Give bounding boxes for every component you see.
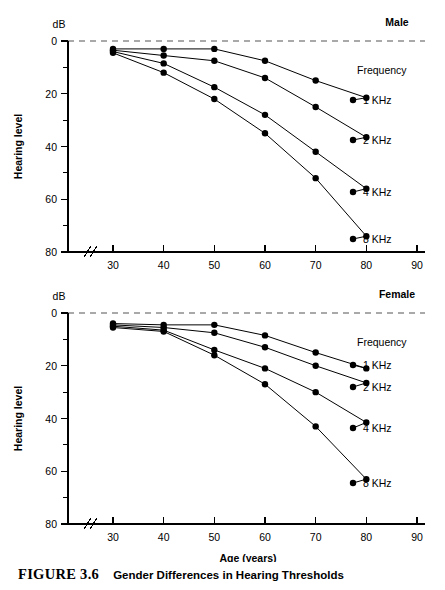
x-tick-label: 90: [411, 259, 423, 271]
legend-marker: [350, 362, 356, 368]
data-point: [262, 112, 268, 118]
data-point: [262, 75, 268, 81]
legend-marker: [350, 189, 356, 195]
figure-3-6: 02040608030405060708090dBHearing levelAg…: [0, 0, 445, 590]
x-axis-title: Age (years): [219, 552, 276, 562]
y-unit-label: dB: [53, 290, 66, 302]
legend-label: 8 KHz: [363, 233, 392, 245]
y-tick-label: 40: [45, 141, 57, 153]
legend-label: 8 KHz: [363, 477, 392, 489]
data-point: [262, 381, 268, 387]
data-point: [160, 69, 166, 75]
x-tick-label: 80: [360, 259, 372, 271]
y-tick-label: 40: [45, 413, 57, 425]
legend-label: 1 KHz: [363, 94, 392, 106]
x-tick-label: 40: [158, 259, 170, 271]
data-point: [312, 363, 318, 369]
figure-caption-text: Gender Differences in Hearing Thresholds: [113, 569, 344, 581]
data-point: [312, 389, 318, 395]
panel-title: Male: [385, 16, 409, 28]
data-point: [160, 52, 166, 58]
legend-marker: [350, 384, 356, 390]
y-tick-label: 60: [45, 193, 57, 205]
legend-title: Frequency: [357, 64, 407, 76]
data-point: [262, 130, 268, 136]
y-tick-label: 20: [45, 360, 57, 372]
data-point: [312, 423, 318, 429]
x-tick-label: 60: [259, 531, 271, 543]
x-tick-label: 80: [360, 531, 372, 543]
legend-marker: [350, 137, 356, 143]
y-tick-label: 60: [45, 465, 57, 477]
legend-marker: [350, 425, 356, 431]
chart-female: 02040608030405060708090dBHearing levelAg…: [0, 272, 445, 562]
data-point: [262, 344, 268, 350]
data-point: [312, 149, 318, 155]
figure-caption-id: FIGURE 3.6: [18, 566, 99, 582]
data-point: [160, 46, 166, 52]
data-point: [160, 328, 166, 334]
legend-marker: [350, 236, 356, 242]
x-tick-label: 30: [107, 259, 119, 271]
legend-label: 1 KHz: [363, 359, 392, 371]
data-point: [211, 352, 217, 358]
data-point: [262, 365, 268, 371]
series-line-8-khz: [113, 328, 366, 483]
data-point: [211, 46, 217, 52]
data-point: [262, 58, 268, 64]
y-axis-title: Hearing level: [12, 114, 24, 179]
legend-label: 2 KHz: [363, 381, 392, 393]
series-line-8-khz: [113, 53, 366, 239]
data-point: [312, 104, 318, 110]
legend-label: 4 KHz: [363, 186, 392, 198]
legend-title: Frequency: [357, 336, 407, 348]
x-tick-label: 50: [208, 259, 220, 271]
data-point: [211, 84, 217, 90]
x-tick-label: 70: [310, 531, 322, 543]
y-tick-label: 0: [51, 307, 57, 319]
data-point: [312, 77, 318, 83]
data-point: [110, 50, 116, 56]
data-point: [160, 60, 166, 66]
x-tick-label: 70: [310, 259, 322, 271]
figure-caption: FIGURE 3.6Gender Differences in Hearing …: [18, 565, 438, 583]
data-point: [211, 58, 217, 64]
legend-label: 4 KHz: [363, 422, 392, 434]
x-tick-label: 90: [411, 531, 423, 543]
legend-label: 2 KHz: [363, 134, 392, 146]
data-point: [312, 349, 318, 355]
series-line-2-khz: [113, 325, 366, 387]
data-point: [211, 330, 217, 336]
data-point: [211, 322, 217, 328]
data-point: [110, 324, 116, 330]
y-unit-label: dB: [53, 18, 66, 30]
data-point: [211, 96, 217, 102]
series-line-4-khz: [113, 52, 366, 192]
y-axis-title: Hearing level: [12, 386, 24, 451]
panel-title: Female: [379, 288, 415, 300]
legend-marker: [350, 480, 356, 486]
series-line-2-khz: [113, 50, 366, 140]
y-tick-label: 80: [45, 246, 57, 258]
x-tick-label: 50: [208, 531, 220, 543]
data-point: [262, 332, 268, 338]
x-tick-label: 30: [107, 531, 119, 543]
series-line-4-khz: [113, 326, 366, 428]
y-tick-label: 80: [45, 518, 57, 530]
x-tick-label: 60: [259, 259, 271, 271]
data-point: [312, 175, 318, 181]
series-line-1-khz: [113, 49, 366, 100]
x-tick-label: 40: [158, 531, 170, 543]
chart-male: 02040608030405060708090dBHearing levelAg…: [0, 0, 445, 272]
y-tick-label: 0: [51, 35, 57, 47]
y-tick-label: 20: [45, 88, 57, 100]
legend-marker: [350, 97, 356, 103]
